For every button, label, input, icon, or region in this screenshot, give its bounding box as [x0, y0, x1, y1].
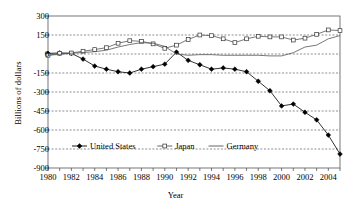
x-tick-label: 2004 [308, 173, 348, 182]
y-tick-label: 150 [9, 31, 49, 40]
y-tick-label: -750 [9, 145, 49, 154]
series-japan [46, 28, 342, 57]
y-tick-label: -150 [9, 69, 49, 78]
x-axis-title: Year [0, 190, 351, 200]
y-tick-label: -450 [9, 107, 49, 116]
legend-label: Germany [227, 141, 259, 151]
legend-label: Japan [175, 141, 195, 151]
legend-item-germany[interactable]: Germany [209, 141, 259, 151]
y-tick-label: -300 [9, 88, 49, 97]
series-germany [48, 36, 340, 56]
y-tick-label: -600 [9, 126, 49, 135]
y-tick-label: 300 [9, 12, 49, 21]
legend-item-japan[interactable]: Japan [157, 141, 195, 151]
x-axis-ticks [48, 168, 340, 171]
chart-container: Billions of dollars Year 3001500-150-300… [0, 0, 351, 212]
chart-legend: United StatesJapanGermany [72, 141, 259, 151]
legend-label: United States [90, 141, 136, 151]
legend-item-united-states[interactable]: United States [72, 141, 136, 151]
y-tick-label: 0 [9, 50, 49, 59]
